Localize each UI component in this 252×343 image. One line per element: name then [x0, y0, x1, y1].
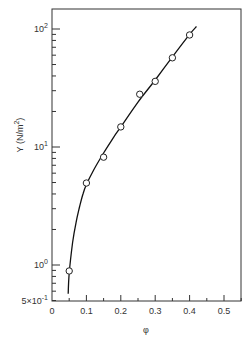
data-point-circle — [186, 32, 192, 38]
y-axis-ticks: 5×10-1100101102 — [21, 22, 60, 306]
x-axis-ticks: 00.10.20.30.40.5 — [49, 295, 241, 316]
x-tick-label: 0.5 — [218, 306, 231, 316]
data-points — [66, 32, 193, 274]
x-tick-label: 0.4 — [183, 306, 196, 316]
y-tick-label: 5×10-1 — [21, 294, 48, 306]
data-point-circle — [83, 180, 89, 186]
y-tick-label: 102 — [34, 22, 48, 34]
data-point-circle — [100, 154, 106, 160]
plot-border — [52, 9, 241, 301]
x-tick-label: 0.1 — [80, 306, 93, 316]
y-axis-label: Y (N/m2) — [13, 118, 25, 153]
data-point-circle — [118, 124, 124, 130]
y-axis-label-base: Y (N/m — [15, 125, 25, 153]
x-axis-label: φ — [143, 325, 149, 335]
data-point-circle — [169, 55, 175, 61]
chart: 00.10.20.30.40.5 5×10-1100101102 φ Y (N/… — [0, 0, 252, 343]
fit-line — [68, 27, 196, 294]
y-tick-label: 100 — [34, 258, 48, 270]
fit-curve — [68, 27, 196, 294]
data-point-circle — [66, 268, 72, 274]
data-point-circle — [137, 91, 143, 97]
y-tick-label: 101 — [34, 140, 48, 152]
x-tick-label: 0.3 — [149, 306, 162, 316]
data-point-circle — [152, 78, 158, 84]
x-tick-label: 0.2 — [115, 306, 128, 316]
y-axis-label-close: ) — [15, 118, 25, 121]
plot-frame — [52, 9, 241, 301]
x-tick-label: 0 — [49, 306, 54, 316]
